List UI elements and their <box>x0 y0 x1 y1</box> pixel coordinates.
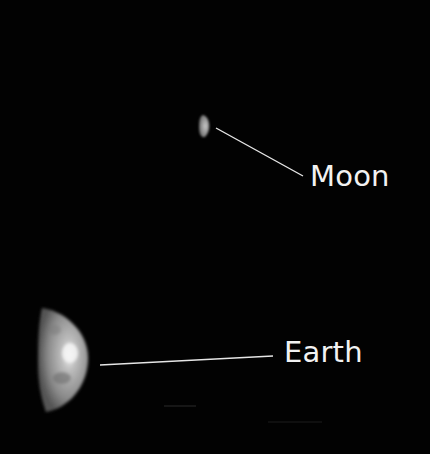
earth-leader-line <box>100 356 273 365</box>
moon-label: Moon <box>310 162 390 191</box>
moon-leader-line <box>216 128 303 176</box>
earth-label: Earth <box>284 338 363 367</box>
scene-graphic <box>0 0 430 454</box>
moon-crescent <box>199 115 209 137</box>
space-image: Moon Earth <box>0 0 430 454</box>
earth-crescent <box>38 308 88 412</box>
